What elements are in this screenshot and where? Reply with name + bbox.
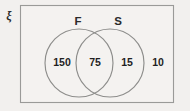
region-count-f-only: 150 xyxy=(53,56,71,68)
region-count-s-only: 15 xyxy=(121,56,133,68)
set-label-f: F xyxy=(74,15,81,27)
venn-diagram-canvas: ξ F S 150 75 15 10 xyxy=(0,0,190,111)
region-count-outside: 10 xyxy=(152,56,164,68)
universal-set-rectangle xyxy=(21,6,174,103)
universal-set-symbol: ξ xyxy=(6,9,12,23)
venn-diagram-container: ξ F S 150 75 15 10 xyxy=(0,0,190,111)
set-label-s: S xyxy=(114,15,122,27)
region-count-intersection: 75 xyxy=(89,56,101,68)
